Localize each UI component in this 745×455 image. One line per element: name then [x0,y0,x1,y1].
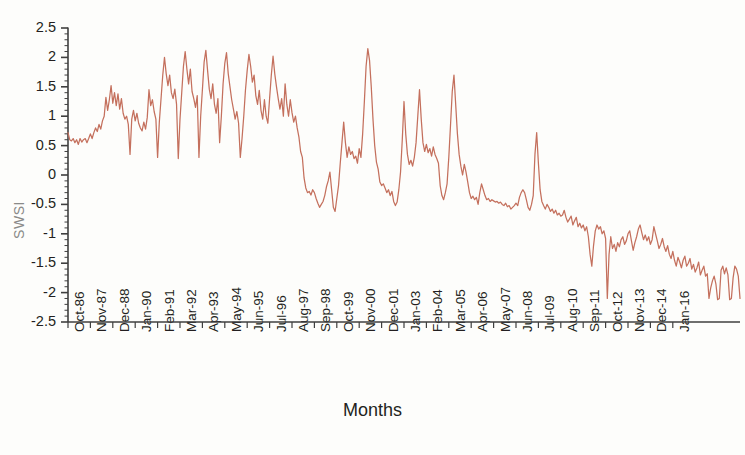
swsi-data-line [68,49,740,300]
axis-lines [68,28,740,323]
swsi-time-series-chart: SWSI 2.521.510.50-0.5-1-1.5-2-2.5 Oct-86… [0,0,745,455]
plot-canvas [0,0,745,455]
x-axis-title: Months [0,400,745,421]
axis-ticks [61,28,673,328]
